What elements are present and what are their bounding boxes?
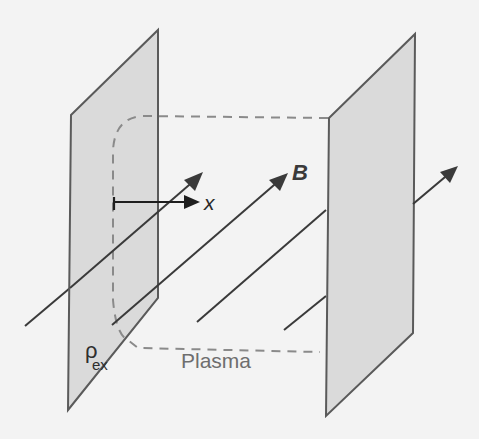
field-line-4 <box>284 296 326 330</box>
right-plate <box>326 34 415 416</box>
field-line-3 <box>197 210 326 322</box>
field-line-1 <box>25 288 70 326</box>
arrowhead-icon <box>269 173 288 191</box>
charge-density-subscript: ex <box>92 356 108 373</box>
plasma-label: Plasma <box>181 349 251 372</box>
arrow-right-icon <box>184 195 200 209</box>
magnetic-field-label: B <box>292 160 308 185</box>
field-line-exit <box>413 166 458 204</box>
x-axis-label: x <box>203 191 216 214</box>
plasma-plates-diagram: x B ρ ex Plasma <box>0 0 479 439</box>
arrowhead-icon <box>440 166 458 183</box>
